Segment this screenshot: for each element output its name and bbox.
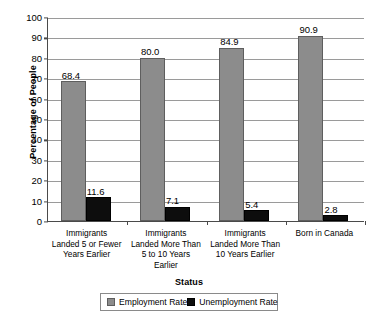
y-axis-tick-mark: [44, 58, 48, 59]
bar-value-label: 90.9: [299, 25, 318, 35]
y-axis-tick-label: 40: [31, 136, 42, 146]
bar-value-label: 2.8: [324, 205, 337, 215]
bar-employment: 68.4: [61, 81, 86, 221]
legend-item-unemployment-rate: Unemployment Rate: [187, 297, 277, 307]
y-axis-tick-label: 100: [26, 13, 42, 23]
bar-unemployment: 11.6: [86, 197, 111, 221]
bar-employment: 90.9: [298, 36, 323, 221]
bar-unemployment: 5.4: [244, 210, 269, 221]
x-axis-title: Status: [0, 277, 378, 287]
y-axis-tick-mark: [44, 221, 48, 222]
y-axis-tick-mark: [44, 38, 48, 39]
legend-label-employment: Employment Rate: [119, 297, 187, 307]
x-axis-tick-mark: [207, 221, 208, 225]
bar-unemployment: 7.1: [165, 207, 190, 221]
y-axis-tick-label: 10: [31, 197, 42, 207]
y-axis-tick-label: 50: [31, 115, 42, 125]
bar-unemployment: 2.8: [323, 215, 348, 221]
y-axis-tick-label: 80: [31, 54, 42, 64]
y-axis-tick-label: 0: [37, 217, 42, 227]
y-axis-tick-label: 70: [31, 74, 42, 84]
legend-item-employment-rate: Employment Rate: [107, 297, 187, 307]
bar-chart: Percentage of People 0102030405060708090…: [0, 0, 378, 332]
y-axis-tick-label: 60: [31, 95, 42, 105]
x-axis-tick-mark: [127, 221, 128, 225]
bar-value-label: 7.1: [166, 196, 179, 206]
chart-legend: Employment Rate Unemployment Rate: [100, 293, 278, 311]
gridline: [48, 18, 364, 19]
y-axis-tick-label: 20: [31, 176, 42, 186]
legend-swatch-icon-unemployment: [187, 298, 195, 306]
y-axis-tick-mark: [44, 140, 48, 141]
bar-value-label: 68.4: [62, 71, 81, 81]
y-axis-tick-mark: [44, 201, 48, 202]
legend-label-unemployment: Unemployment Rate: [199, 297, 277, 307]
y-axis-tick-mark: [44, 99, 48, 100]
x-axis-category-label: Born in Canada: [277, 228, 372, 239]
plot-area: 010203040506070809010068.411.680.07.184.…: [47, 18, 364, 222]
bar-value-label: 84.9: [220, 37, 239, 47]
x-axis-tick-mark: [286, 221, 287, 225]
y-axis-tick-mark: [44, 119, 48, 120]
bar-employment: 80.0: [140, 58, 165, 221]
legend-swatch-icon-employment: [107, 298, 115, 306]
bar-value-label: 5.4: [245, 200, 258, 210]
y-axis-tick-mark: [44, 160, 48, 161]
bar-value-label: 80.0: [141, 47, 160, 57]
y-axis-tick-label: 30: [31, 156, 42, 166]
y-axis-tick-mark: [44, 17, 48, 18]
y-axis-tick-mark: [44, 79, 48, 80]
bar-employment: 84.9: [219, 48, 244, 221]
bar-value-label: 11.6: [87, 187, 105, 197]
x-axis-tick-mark: [365, 221, 366, 225]
y-axis-tick-label: 90: [31, 34, 42, 44]
y-axis-tick-mark: [44, 181, 48, 182]
